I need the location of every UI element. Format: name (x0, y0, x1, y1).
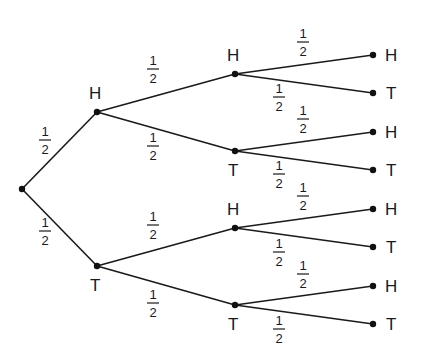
edge-HT-HTT (235, 151, 373, 170)
fraction-denominator: 2 (41, 233, 48, 248)
probability-label: 12 (297, 103, 309, 136)
probability-label: 12 (147, 53, 159, 86)
node-dot-ht (232, 148, 238, 154)
fraction-numerator: 1 (149, 287, 156, 302)
edge-root-H (22, 112, 97, 189)
node-dot-hhh (370, 52, 376, 58)
outcome-label: T (228, 315, 238, 334)
probability-tree: 1212121212121212121212121212 HTHTHTHTHTH… (0, 0, 422, 352)
fraction-denominator: 2 (149, 305, 156, 320)
fraction-numerator: 1 (275, 158, 282, 173)
fraction-denominator: 2 (149, 227, 156, 242)
node-dot-tt (232, 302, 238, 308)
outcome-label: H (227, 46, 239, 65)
probability-label: 12 (147, 287, 159, 320)
fraction-denominator: 2 (149, 148, 156, 163)
node-dot-hht (370, 90, 376, 96)
outcome-label: T (90, 276, 100, 295)
probability-label: 12 (39, 124, 51, 157)
outcome-label: H (385, 200, 397, 219)
fraction-numerator: 1 (41, 215, 48, 230)
node-dot-t (94, 263, 100, 269)
edge-H-HT (97, 112, 235, 151)
fraction-denominator: 2 (299, 276, 306, 291)
fraction-numerator: 1 (299, 103, 306, 118)
edge-T-TH (97, 228, 235, 266)
node-dot-thh (370, 206, 376, 212)
fraction-numerator: 1 (41, 124, 48, 139)
fraction-denominator: 2 (275, 254, 282, 269)
fraction-numerator: 1 (275, 81, 282, 96)
outcome-label: H (385, 46, 397, 65)
probability-label: 12 (297, 26, 309, 59)
outcome-label: H (385, 123, 397, 142)
fraction-numerator: 1 (299, 26, 306, 41)
fraction-numerator: 1 (149, 53, 156, 68)
edge-TT-TTT (235, 305, 373, 324)
outcome-label: H (227, 200, 239, 219)
outcome-label: T (228, 161, 238, 180)
probability-label: 12 (273, 313, 285, 346)
fraction-denominator: 2 (299, 198, 306, 213)
fraction-denominator: 2 (299, 121, 306, 136)
probability-label: 12 (297, 258, 309, 291)
tree-edges (22, 55, 373, 324)
node-dot-htt (370, 167, 376, 173)
edge-TH-THT (235, 228, 373, 247)
fraction-denominator: 2 (275, 176, 282, 191)
fraction-denominator: 2 (41, 142, 48, 157)
node-dot-ttt (370, 321, 376, 327)
probability-label: 12 (297, 180, 309, 213)
probability-label: 12 (147, 130, 159, 163)
fraction-numerator: 1 (299, 180, 306, 195)
node-dot-tht (370, 244, 376, 250)
fraction-denominator: 2 (275, 331, 282, 346)
edge-H-HH (97, 74, 235, 112)
outcome-label: T (386, 84, 396, 103)
fraction-denominator: 2 (149, 71, 156, 86)
fraction-denominator: 2 (275, 99, 282, 114)
edge-T-TT (97, 266, 235, 305)
node-dot-hth (370, 129, 376, 135)
fraction-denominator: 2 (299, 44, 306, 59)
fraction-numerator: 1 (275, 313, 282, 328)
fraction-numerator: 1 (149, 209, 156, 224)
probability-label: 12 (273, 158, 285, 191)
outcome-label: H (385, 277, 397, 296)
edge-HH-HHT (235, 74, 373, 93)
node-dot-tth (370, 283, 376, 289)
node-dot-th (232, 225, 238, 231)
node-dot-hh (232, 71, 238, 77)
outcome-label: T (386, 315, 396, 334)
node-dot-h (94, 109, 100, 115)
edge-probabilities: 1212121212121212121212121212 (39, 26, 309, 346)
outcome-label: T (386, 238, 396, 257)
tree-nodes (19, 52, 376, 327)
fraction-numerator: 1 (299, 258, 306, 273)
probability-label: 12 (147, 209, 159, 242)
node-dot-root (19, 186, 25, 192)
probability-label: 12 (273, 236, 285, 269)
probability-label: 12 (39, 215, 51, 248)
fraction-numerator: 1 (275, 236, 282, 251)
edge-root-T (22, 189, 97, 266)
outcome-label: H (89, 84, 101, 103)
fraction-numerator: 1 (149, 130, 156, 145)
outcome-label: T (386, 161, 396, 180)
probability-label: 12 (273, 81, 285, 114)
